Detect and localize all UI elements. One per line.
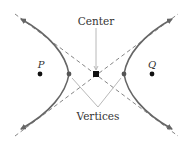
- vertex-point-left: [67, 72, 72, 77]
- center-point: [93, 71, 99, 77]
- center-label: Center: [78, 15, 115, 27]
- hyperbola-left-branch: [21, 19, 69, 74]
- vertex-pointer-left: [72, 78, 98, 107]
- hyperbola-diagram: Center Vertices P Q: [0, 0, 187, 151]
- vertices-label: Vertices: [76, 110, 120, 122]
- vertex-point-right: [122, 72, 127, 77]
- focus-point-p: [38, 72, 43, 77]
- hyperbola-right-branch-lower: [124, 74, 172, 129]
- focus-label-p: P: [37, 59, 45, 70]
- vertex-pointer-right: [98, 78, 121, 107]
- focus-point-q: [150, 72, 155, 77]
- focus-label-q: Q: [148, 59, 156, 70]
